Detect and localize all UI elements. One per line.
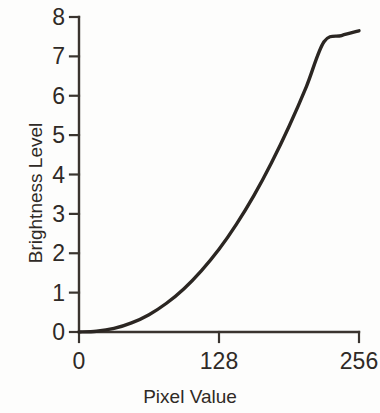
x-tick-label: 0 [73, 350, 86, 373]
x-axis-title: Pixel Value [0, 386, 380, 408]
y-tick-label: 0 [39, 321, 65, 344]
x-tick-label: 256 [340, 350, 378, 373]
chart-figure: 012345678 0128256 Brightness Level Pixel… [0, 0, 380, 413]
y-axis-title: Brightness Level [25, 73, 47, 313]
x-tick-label: 128 [200, 350, 238, 373]
y-tick-label: 8 [39, 6, 65, 29]
y-tick-label: 7 [39, 45, 65, 68]
axes [79, 17, 359, 332]
y-axis-ticks [70, 17, 79, 332]
x-axis-ticks [79, 332, 359, 342]
data-series-line [79, 31, 359, 332]
